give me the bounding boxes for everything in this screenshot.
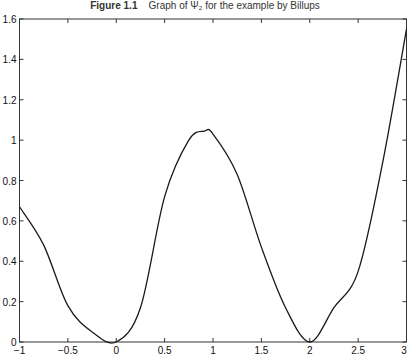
x-tick-label: −0.5: [58, 345, 78, 356]
y-tick-label: 0.6: [3, 216, 17, 227]
x-tick-label: 1.5: [254, 345, 268, 356]
line-chart: −1−0.500.511.522.5300.20.40.60.811.21.41…: [0, 0, 410, 360]
y-tick-label: 0: [11, 337, 17, 348]
psi2-curve: [20, 29, 407, 343]
x-tick-label: 0.5: [158, 345, 172, 356]
y-tick-label: 0.8: [3, 176, 17, 187]
x-tick-label: 1: [210, 345, 216, 356]
x-tick-label: 0: [113, 345, 119, 356]
x-tick-label: 2: [307, 345, 313, 356]
y-tick-label: 0.2: [3, 297, 17, 308]
x-tick-label: 3: [401, 345, 407, 356]
axis-ticks: −1−0.500.511.522.5300.20.40.60.811.21.41…: [3, 14, 408, 356]
y-tick-label: 1.6: [3, 14, 17, 25]
y-tick-label: 1.2: [3, 95, 17, 106]
y-tick-label: 1: [11, 135, 17, 146]
y-tick-label: 1.4: [3, 54, 17, 65]
y-tick-label: 0.4: [3, 256, 17, 267]
x-tick-label: 2.5: [351, 345, 365, 356]
plot-axes: [20, 19, 407, 342]
plot-frame: [20, 19, 407, 342]
